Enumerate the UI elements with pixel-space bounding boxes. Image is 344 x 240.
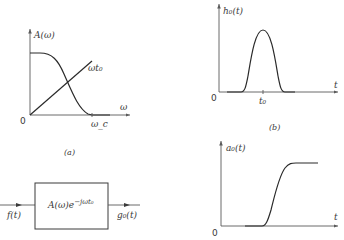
y-axis-label: h₀(t) [223, 6, 244, 16]
phase-line [30, 61, 92, 115]
x-axis-label: t [334, 212, 338, 222]
block-diagram: A(ω)e−jωt₀ f(t) g₀(t) [0, 183, 140, 229]
plot-amplitude-spectrum: A(ω) ω 0 ωt₀ ω_c (a) [20, 29, 130, 157]
origin-label: 0 [20, 116, 26, 126]
origin-label: 0 [212, 228, 218, 238]
y-axis-label: A(ω) [33, 30, 55, 40]
block-transfer-text: A(ω)e−jωt₀ [47, 198, 94, 210]
output-label: g₀(t) [117, 210, 137, 220]
peak-time-label: t₀ [259, 96, 267, 106]
step-response-curve [245, 163, 318, 226]
diagram-canvas: A(ω) ω 0 ωt₀ ω_c (a) A(ω)e−jωt₀ f(t) g₀(… [0, 0, 344, 240]
input-arrow-icon [16, 203, 22, 207]
output-arrow-icon [124, 203, 130, 207]
y-axis-label: a₀(t) [226, 143, 246, 153]
impulse-curve [227, 30, 295, 92]
x-axis-label: ω [120, 102, 128, 112]
plot-step-response: a₀(t) t 0 [212, 141, 338, 238]
x-axis-label: t [334, 80, 338, 90]
origin-label: 0 [211, 93, 217, 103]
input-label: f(t) [6, 210, 21, 220]
cutoff-label: ω_c [91, 119, 108, 130]
caption-b: (b) [269, 123, 280, 132]
phase-line-label: ωt₀ [88, 63, 103, 73]
plot-impulse-response: h₀(t) t 0 t₀ (b) [211, 4, 338, 132]
caption-a: (a) [64, 148, 75, 157]
